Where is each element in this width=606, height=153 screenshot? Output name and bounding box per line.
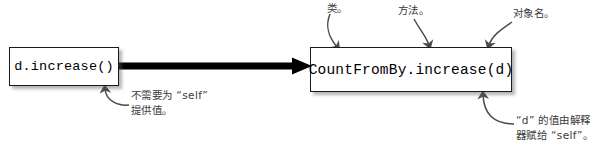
pointer-interpreter [483, 95, 514, 124]
annotation-label-object-name: 对象名。 [513, 6, 555, 20]
diagram-canvas: d.increase() CountFromBy.increase(d) 类。 … [0, 0, 606, 153]
pointer-class [328, 14, 337, 47]
annotation-label-method: 方法。 [398, 3, 429, 17]
annotation-label-class: 类。 [327, 1, 348, 15]
pointer-object-name [489, 22, 512, 45]
pointer-no-self [105, 89, 129, 105]
pointer-method [414, 19, 429, 45]
annotation-label-interpreter: “d” 的值由解释 器赋给 “self”。 [516, 113, 593, 143]
call-flow-arrow [118, 58, 312, 75]
annotation-label-no-self: 不需要为 “self” 提供值。 [131, 88, 208, 118]
code-box-class-call: CountFromBy.increase(d) [310, 47, 512, 92]
code-box-method-call: d.increase() [9, 47, 119, 86]
